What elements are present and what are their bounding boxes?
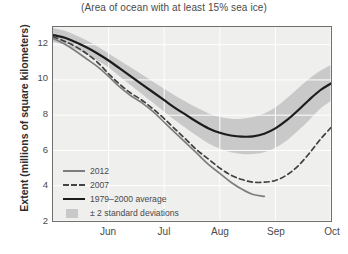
- y-tick-label: 10: [14, 72, 48, 83]
- y-tick-label: 6: [14, 144, 48, 155]
- std-dev-band: [53, 28, 331, 154]
- chart-title: (Area of ocean with at least 15% sea ice…: [0, 2, 348, 13]
- y-tick-label: 2: [14, 215, 48, 226]
- x-axis-ticks: JunJulAugSepOct: [52, 226, 332, 246]
- chart-legend: 2012 2007 1979–2000 average ± 2 standard…: [62, 164, 212, 220]
- solid-gray-line-icon: [62, 165, 86, 177]
- gray-band-swatch-icon: [62, 207, 86, 219]
- legend-item-average: 1979–2000 average: [62, 192, 212, 206]
- x-tick-label: Aug: [211, 226, 229, 237]
- legend-label: 1979–2000 average: [86, 194, 166, 204]
- legend-item-stddev: ± 2 standard deviations: [62, 206, 212, 220]
- x-tick-label: Jul: [158, 226, 171, 237]
- sea-ice-extent-chart: (Area of ocean with at least 15% sea ice…: [0, 0, 348, 254]
- solid-black-line-icon: [62, 193, 86, 205]
- y-tick-label: 12: [14, 37, 48, 48]
- y-tick-label: 8: [14, 108, 48, 119]
- legend-label: 2012: [86, 166, 109, 176]
- y-tick-label: 4: [14, 179, 48, 190]
- x-tick-label: Oct: [324, 226, 340, 237]
- dashed-line-icon: [62, 179, 86, 191]
- x-tick-label: Sep: [267, 226, 285, 237]
- legend-item-2012: 2012: [62, 164, 212, 178]
- legend-label: 2007: [86, 180, 109, 190]
- legend-item-2007: 2007: [62, 178, 212, 192]
- y-axis-ticks: 12108642: [10, 26, 48, 222]
- legend-label: ± 2 standard deviations: [86, 208, 179, 218]
- x-tick-label: Jun: [100, 226, 116, 237]
